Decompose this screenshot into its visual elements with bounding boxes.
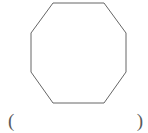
octagon-worksheet-figure: ( ) — [0, 0, 148, 133]
answer-blank-field[interactable] — [20, 108, 138, 133]
shape-drawing-area — [0, 0, 148, 108]
close-parenthesis: ) — [137, 108, 143, 133]
open-parenthesis: ( — [8, 108, 14, 133]
answer-parentheses-row: ( ) — [0, 108, 148, 133]
octagon-outline — [31, 3, 126, 103]
octagon-shape-svg — [0, 0, 148, 108]
